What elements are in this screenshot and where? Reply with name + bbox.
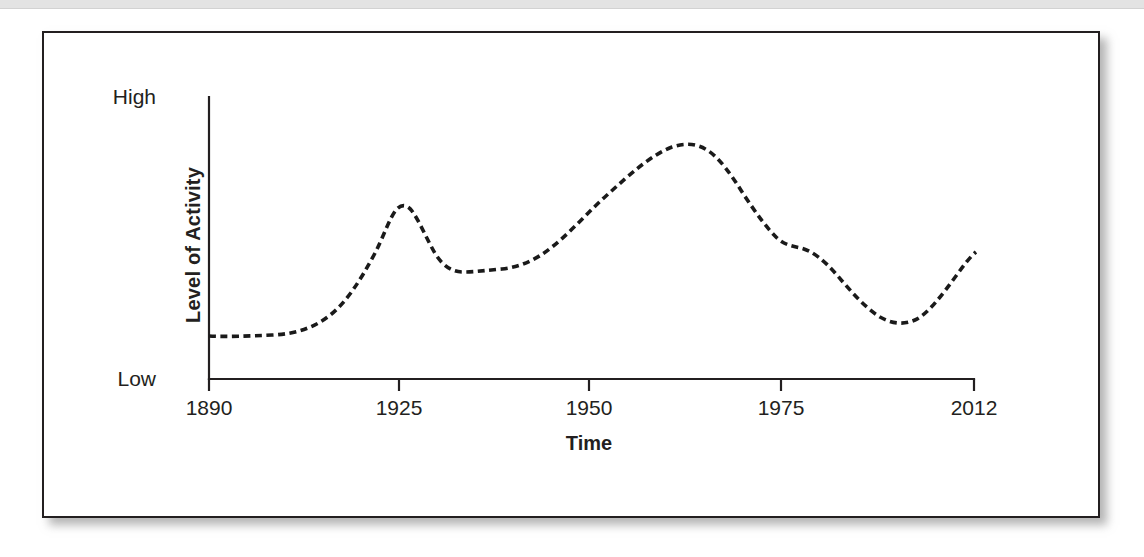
y-axis-low-label: Low <box>117 367 156 391</box>
x-tick-label-1975: 1975 <box>758 396 805 420</box>
y-axis-title: Level of Activity <box>182 167 205 323</box>
x-tick-label-1950: 1950 <box>566 396 613 420</box>
x-tick-label-1925: 1925 <box>376 396 423 420</box>
x-axis-title: Time <box>566 432 612 455</box>
y-axis-high-label: High <box>113 85 156 109</box>
figure-frame: High Low 1890 1925 1950 1975 2012 Level … <box>42 31 1100 518</box>
chart-plot-area: High Low 1890 1925 1950 1975 2012 Level … <box>44 33 1098 516</box>
x-tick-label-2012: 2012 <box>951 396 998 420</box>
page-top-band <box>0 0 1144 9</box>
x-tick-label-1890: 1890 <box>186 396 233 420</box>
activity-curve <box>209 144 976 336</box>
